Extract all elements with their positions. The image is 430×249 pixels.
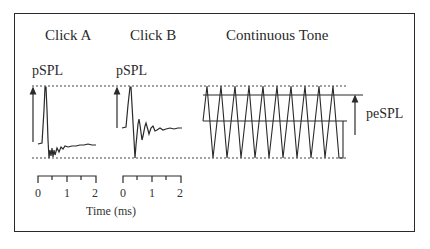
click-b-waveform xyxy=(122,87,182,158)
timescale-b-tick-0: 0 xyxy=(120,186,126,201)
pespl-arrow-head xyxy=(353,96,358,102)
time-axis-label: Time (ms) xyxy=(86,204,136,219)
click-a-waveform xyxy=(38,87,96,158)
timescale-b-tick-1: 1 xyxy=(149,186,155,201)
timescale-a-tick-1: 1 xyxy=(64,186,70,201)
timescale-a-tick-2: 2 xyxy=(92,186,98,201)
tone-waveform xyxy=(203,86,343,158)
continuous-tone xyxy=(203,86,363,158)
waveform-diagram xyxy=(0,0,430,249)
timescale-bars xyxy=(38,176,181,183)
reference-lines xyxy=(32,86,347,158)
pspl-arrow-b-head xyxy=(115,88,120,94)
timescale-b-tick-2: 2 xyxy=(177,186,183,201)
timescale-a-tick-0: 0 xyxy=(35,186,41,201)
pspl-arrow-a-head xyxy=(31,88,36,94)
